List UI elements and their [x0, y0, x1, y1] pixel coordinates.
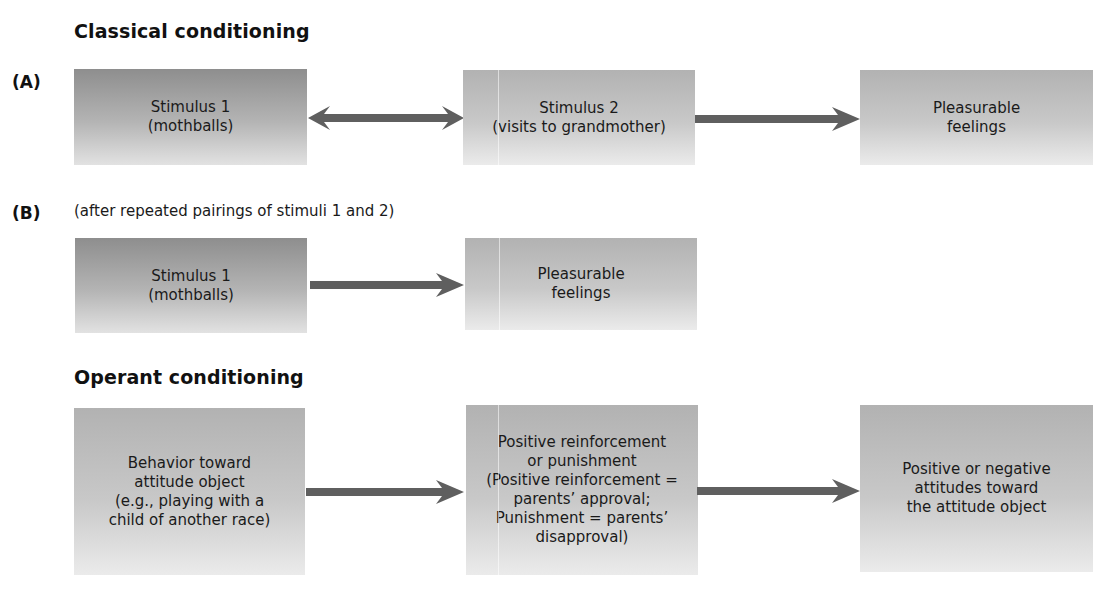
scan-seam	[498, 405, 499, 575]
box-b-pleasurable-feelings-text: Pleasurable feelings	[537, 265, 624, 303]
box-a-stimulus-1: Stimulus 1 (mothballs)	[74, 69, 307, 165]
panel-b-caption: (after repeated pairings of stimuli 1 an…	[74, 202, 394, 220]
bidirectional-arrow-icon	[308, 104, 464, 132]
scan-seam	[499, 238, 500, 330]
right-arrow-icon	[306, 478, 464, 506]
panel-b-label: (B)	[12, 203, 41, 223]
right-arrow-icon	[697, 477, 860, 505]
box-attitudes: Positive or negative attitudes toward th…	[860, 405, 1093, 572]
box-b-stimulus-1-text: Stimulus 1 (mothballs)	[148, 267, 234, 305]
scan-seam	[498, 70, 499, 165]
box-reinforcement-punishment: Positive reinforcement or punishment (Po…	[466, 405, 698, 575]
box-behavior: Behavior toward attitude object (e.g., p…	[74, 408, 305, 575]
box-behavior-text: Behavior toward attitude object (e.g., p…	[109, 454, 271, 530]
classical-conditioning-title: Classical conditioning	[74, 20, 310, 42]
right-arrow-icon	[310, 271, 464, 299]
box-a-stimulus-1-text: Stimulus 1 (mothballs)	[148, 98, 234, 136]
box-a-stimulus-2: Stimulus 2 (visits to grandmother)	[463, 70, 695, 165]
right-arrow-icon	[695, 105, 860, 133]
box-a-pleasurable-feelings-text: Pleasurable feelings	[933, 99, 1020, 137]
box-b-pleasurable-feelings: Pleasurable feelings	[465, 238, 697, 330]
box-attitudes-text: Positive or negative attitudes toward th…	[902, 460, 1050, 517]
panel-a-label: (A)	[12, 72, 41, 92]
operant-conditioning-title: Operant conditioning	[74, 366, 304, 388]
box-a-stimulus-2-text: Stimulus 2 (visits to grandmother)	[492, 99, 666, 137]
box-reinforcement-punishment-text: Positive reinforcement or punishment (Po…	[486, 433, 678, 547]
box-a-pleasurable-feelings: Pleasurable feelings	[860, 70, 1093, 165]
box-b-stimulus-1: Stimulus 1 (mothballs)	[75, 238, 307, 333]
